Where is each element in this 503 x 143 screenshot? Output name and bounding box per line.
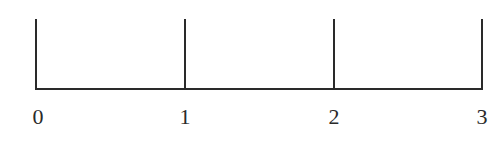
tick-1	[184, 19, 186, 90]
tick-label-3: 3	[467, 104, 497, 130]
number-line: 0 1 2 3	[0, 0, 503, 143]
tick-3	[481, 19, 483, 90]
number-line-baseline	[35, 88, 483, 90]
tick-0	[35, 19, 37, 90]
tick-label-2: 2	[319, 104, 349, 130]
tick-label-0: 0	[23, 104, 53, 130]
tick-label-1: 1	[170, 104, 200, 130]
tick-2	[333, 19, 335, 90]
